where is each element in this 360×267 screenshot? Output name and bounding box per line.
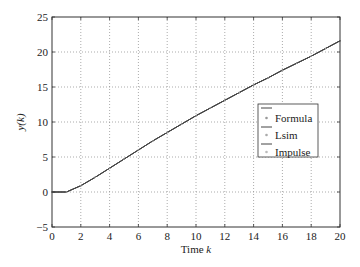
x-tick-label: 18 [306,230,318,242]
x-tick-label: 14 [248,230,260,242]
x-tick-labels: 02468101214161820 [49,230,346,242]
data-point-impulse [195,115,197,117]
legend-label-formula: Formula [275,112,312,124]
legend-label-impulse: Impulse [275,146,311,158]
y-tick-label: 0 [43,186,49,198]
y-tick-label: −5 [36,221,48,233]
y-tick-label: 10 [37,116,49,128]
x-tick-label: 16 [277,230,289,242]
data-point-impulse [181,123,183,125]
x-tick-label: 8 [164,230,170,242]
x-tick-label: 0 [49,230,55,242]
y-tick-label: 20 [37,46,49,58]
data-point-impulse [224,100,226,102]
data-point-impulse [253,84,255,86]
data-point-impulse [282,69,284,71]
x-axis-label: Time k [181,243,213,255]
y-tick-label: 15 [37,81,49,93]
legend-marker-formula [265,117,268,120]
data-point-impulse [138,149,140,151]
data-point-impulse [66,191,68,193]
line-chart: 02468101214161820 −50510152025 Time k y(… [0,0,360,267]
legend-marker-lsim [265,134,268,137]
data-point-impulse [123,158,125,160]
x-tick-label: 20 [335,230,347,242]
x-tick-label: 6 [136,230,142,242]
legend-label-lsim: Lsim [275,129,298,141]
data-point-impulse [296,62,298,64]
data-point-impulse [152,140,154,142]
y-tick-label: 5 [43,151,49,163]
data-point-impulse [94,177,96,179]
data-point-impulse [238,92,240,94]
x-tick-label: 2 [78,230,84,242]
x-tick-label: 10 [191,230,203,242]
data-point-impulse [267,77,269,79]
data-point-impulse [166,132,168,134]
legend-marker-impulse [265,151,268,154]
data-point-impulse [210,107,212,109]
data-point-impulse [310,55,312,57]
x-tick-label: 4 [107,230,113,242]
x-tick-label: 12 [219,230,230,242]
legend: Formula Lsim Impulse [258,104,318,158]
y-tick-label: 25 [37,11,49,23]
data-point-impulse [325,48,327,50]
data-point-impulse [80,185,82,187]
data-point-impulse [109,167,111,169]
y-tick-labels: −50510152025 [36,11,48,233]
y-axis-label: y(k) [14,113,27,131]
